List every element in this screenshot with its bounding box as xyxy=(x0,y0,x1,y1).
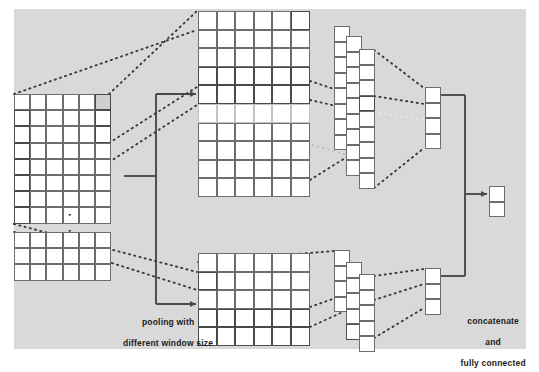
grid-cell xyxy=(79,94,95,110)
grid-cell xyxy=(14,143,30,159)
fully-connected-vector-top xyxy=(425,87,441,149)
pooled-map-top xyxy=(198,11,310,197)
grid-cell xyxy=(272,272,291,291)
grid-cell xyxy=(95,126,111,142)
grid-cell xyxy=(198,141,217,160)
grid-cell xyxy=(235,11,254,30)
grid-cell xyxy=(359,65,375,81)
grid-cell xyxy=(46,159,62,175)
grid-cell xyxy=(79,191,95,207)
grid-cell xyxy=(359,173,375,189)
grid-cell xyxy=(217,272,236,291)
grid-cell xyxy=(291,160,310,179)
grid-cell xyxy=(217,85,236,104)
grid-cell xyxy=(46,264,62,280)
grid-cell xyxy=(217,123,236,142)
grid-cell xyxy=(46,175,62,191)
grid-cell xyxy=(359,96,375,112)
grid-cell xyxy=(198,160,217,179)
grid-cell xyxy=(14,191,30,207)
grid-cell xyxy=(272,178,291,197)
grid-cell xyxy=(217,67,236,86)
grid-cell xyxy=(425,299,441,315)
grid-cell xyxy=(272,160,291,179)
grid-cell xyxy=(359,290,375,306)
grid-cell xyxy=(254,104,273,123)
grid-cell xyxy=(30,126,46,142)
grid-cell xyxy=(30,159,46,175)
grid-cell xyxy=(63,143,79,159)
grid-cell xyxy=(63,248,79,264)
grid-cell xyxy=(254,11,273,30)
grid-cell xyxy=(489,186,505,202)
grid-cell xyxy=(14,126,30,142)
grid-cell xyxy=(235,309,254,328)
grid-cell xyxy=(198,30,217,49)
grid-cell xyxy=(291,309,310,328)
grid-cell xyxy=(14,94,30,110)
pooling-label-line1: pooling with xyxy=(142,317,194,327)
grid-cell xyxy=(95,143,111,159)
grid-cell xyxy=(291,104,310,123)
grid-cell xyxy=(235,272,254,291)
grid-cell xyxy=(30,143,46,159)
grid-cell xyxy=(217,160,236,179)
grid-cell xyxy=(425,268,441,284)
grid-cell xyxy=(79,232,95,248)
grid-cell xyxy=(217,48,236,67)
grid-cell xyxy=(63,264,79,280)
grid-cell xyxy=(95,110,111,126)
grid-cell xyxy=(46,94,62,110)
flatten-vector-bottom-front xyxy=(359,274,375,352)
grid-cell xyxy=(489,202,505,218)
grid-cell xyxy=(79,159,95,175)
grid-cell xyxy=(30,191,46,207)
grid-cell xyxy=(235,178,254,197)
grid-cell xyxy=(79,248,95,264)
grid-cell xyxy=(291,253,310,272)
grid-cell xyxy=(291,327,310,346)
grid-cell xyxy=(14,175,30,191)
grid-cell xyxy=(359,111,375,127)
grid-cell xyxy=(217,178,236,197)
grid-cell xyxy=(235,327,254,346)
grid-cell xyxy=(291,11,310,30)
grid-cell xyxy=(291,178,310,197)
output-vector xyxy=(489,186,505,217)
grid-cell xyxy=(291,141,310,160)
grid-cell xyxy=(272,104,291,123)
grid-cell xyxy=(198,85,217,104)
grid-cell xyxy=(254,48,273,67)
grid-cell xyxy=(291,123,310,142)
grid-cell xyxy=(359,274,375,290)
grid-cell xyxy=(425,103,441,119)
grid-cell xyxy=(79,110,95,126)
grid-cell xyxy=(14,207,30,223)
grid-cell xyxy=(14,248,30,264)
grid-cell xyxy=(14,264,30,280)
grid-cell xyxy=(95,94,111,110)
grid-cell xyxy=(254,30,273,49)
grid-cell xyxy=(217,11,236,30)
grid-cell xyxy=(254,309,273,328)
grid-cell xyxy=(30,264,46,280)
grid-cell xyxy=(63,175,79,191)
grid-cell xyxy=(254,327,273,346)
grid-cell xyxy=(359,127,375,143)
grid-cell xyxy=(235,85,254,104)
grid-cell xyxy=(198,48,217,67)
grid-cell xyxy=(254,160,273,179)
grid-cell xyxy=(63,126,79,142)
grid-cell xyxy=(425,118,441,134)
grid-cell xyxy=(79,264,95,280)
pooling-label: pooling with different window size xyxy=(98,306,228,359)
grid-cell xyxy=(95,175,111,191)
grid-cell xyxy=(291,30,310,49)
grid-cell xyxy=(272,30,291,49)
concatenate-label-line3: fully connected xyxy=(460,358,525,368)
grid-cell xyxy=(359,142,375,158)
grid-cell xyxy=(95,248,111,264)
concatenate-label: concatenate and fully connected xyxy=(440,305,536,372)
grid-cell xyxy=(272,11,291,30)
grid-cell xyxy=(359,158,375,174)
